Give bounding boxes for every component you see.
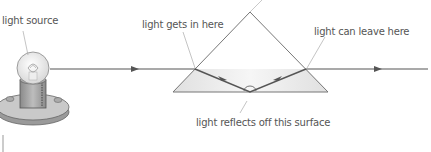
label-reflects: light reflects off this surface <box>196 117 330 128</box>
lamp <box>0 52 69 125</box>
prism <box>173 0 328 92</box>
label-light-out: light can leave here <box>314 26 409 37</box>
label-light-source: light source <box>2 15 58 26</box>
label-light-in: light gets in here <box>142 19 223 30</box>
